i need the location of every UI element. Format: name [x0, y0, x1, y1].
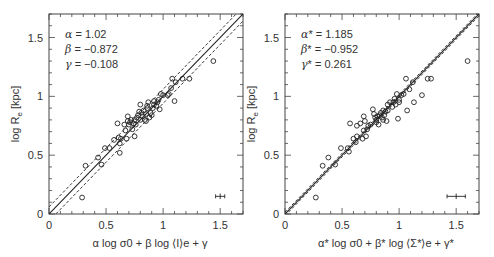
- data-point: [362, 119, 367, 124]
- parameter-annotation: α* = 1.185: [301, 28, 353, 41]
- data-point: [348, 121, 353, 126]
- data-point: [211, 59, 216, 64]
- y-tick-label: 0.5: [28, 149, 43, 161]
- x-axis-label: α* log σ0 + β* log ⟨Σ*⟩e + γ*: [318, 237, 455, 249]
- x-axis-label: α log σ0 + β log ⟨I⟩e + γ: [93, 237, 208, 249]
- data-point: [358, 121, 363, 126]
- data-point: [83, 163, 88, 168]
- parameter-annotation: α = 1.02: [65, 28, 106, 41]
- data-point: [187, 76, 192, 81]
- data-point: [429, 76, 434, 81]
- data-point: [404, 76, 409, 81]
- data-point: [165, 93, 170, 98]
- data-point: [465, 59, 470, 64]
- scatter-plots: 00.511.500.511.5α = 1.02β = −0.872γ = −0…: [0, 0, 494, 257]
- x-tick-label: 0.5: [334, 219, 349, 231]
- data-point: [420, 93, 425, 98]
- y-tick-label: 0.5: [264, 149, 279, 161]
- data-point: [394, 92, 399, 97]
- data-point: [99, 162, 104, 167]
- data-point: [115, 121, 120, 126]
- data-point: [339, 146, 344, 151]
- data-point: [396, 116, 401, 121]
- data-point: [354, 123, 359, 128]
- data-point: [166, 92, 171, 97]
- error-bar: [447, 194, 465, 200]
- y-tick-label: 0: [37, 208, 43, 220]
- y-tick-label: 1.5: [28, 32, 43, 44]
- data-point: [313, 195, 318, 200]
- data-point: [80, 195, 85, 200]
- x-tick-label: 1: [160, 219, 166, 231]
- y-tick-label: 1.5: [264, 32, 279, 44]
- data-point: [405, 108, 410, 113]
- error-bar: [216, 194, 225, 200]
- data-point: [360, 136, 365, 141]
- data-point: [412, 100, 417, 105]
- panel-left: 00.511.500.511.5α = 1.02β = −0.872γ = −0…: [9, 7, 243, 249]
- data-point: [326, 155, 331, 160]
- data-point: [138, 102, 143, 107]
- x-tick-label: 1.5: [213, 219, 228, 231]
- panel-right: 00.511.500.511.5α* = 1.185β* = −0.952γ* …: [245, 12, 479, 249]
- y-axis-label: log Re [kpc]: [245, 86, 260, 142]
- parameter-annotation: β* = −0.952: [300, 43, 358, 56]
- data-point: [364, 134, 369, 139]
- data-point: [172, 99, 177, 104]
- y-tick-label: 1: [37, 90, 43, 102]
- data-point: [370, 107, 375, 112]
- data-point: [124, 136, 129, 141]
- y-tick-label: 1: [273, 90, 279, 102]
- data-point: [361, 114, 366, 119]
- x-tick-label: 1.5: [449, 219, 464, 231]
- figure: 00.511.500.511.5α = 1.02β = −0.872γ = −0…: [0, 0, 494, 257]
- y-tick-label: 0: [273, 208, 279, 220]
- data-point: [320, 163, 325, 168]
- parameter-annotation: γ* = 0.261: [301, 58, 352, 71]
- x-tick-label: 1: [396, 219, 402, 231]
- parameter-annotation: β = −0.872: [64, 43, 118, 56]
- x-tick-label: 0: [46, 219, 52, 231]
- parameter-annotation: γ = −0.108: [65, 58, 118, 71]
- data-point: [107, 146, 112, 151]
- x-tick-label: 0.5: [98, 219, 113, 231]
- data-point: [132, 134, 137, 139]
- x-tick-label: 0: [282, 219, 288, 231]
- data-point: [351, 136, 356, 141]
- data-point: [117, 150, 122, 155]
- y-axis-label: log Re [kpc]: [9, 86, 24, 142]
